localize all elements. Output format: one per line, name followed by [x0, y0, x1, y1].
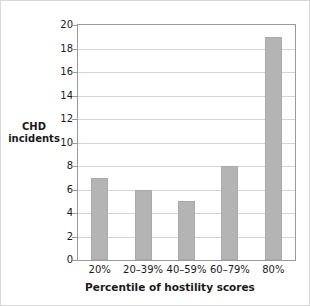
y-axis-tick-label: 6: [53, 185, 73, 195]
gridline: [78, 72, 295, 73]
y-axis-tick-label: 4: [53, 208, 73, 218]
bar: [91, 178, 108, 260]
x-axis-tick-labels: 20%20–39%40–59%60–79%80%: [77, 264, 296, 278]
gridline: [78, 190, 295, 191]
y-axis-tick-label: 16: [53, 67, 73, 77]
plot-area: [77, 24, 296, 261]
y-axis-tick-label: 18: [53, 44, 73, 54]
gridline: [78, 143, 295, 144]
x-axis-title: Percentile of hostility scores: [41, 281, 299, 293]
bar: [221, 166, 238, 260]
y-axis-tick-label: 14: [53, 91, 73, 101]
y-axis-tick-label: 10: [53, 138, 73, 148]
bar: [265, 37, 282, 260]
y-axis-tick-label: 2: [53, 232, 73, 242]
gridline: [78, 119, 295, 120]
bar: [135, 190, 152, 261]
gridline: [78, 49, 295, 50]
bar: [178, 201, 195, 260]
gridline: [78, 96, 295, 97]
y-axis-tick-label: 12: [53, 114, 73, 124]
x-axis-tick-label: 80%: [243, 264, 303, 276]
plot-inner: [78, 25, 295, 260]
y-axis-tick-label: 8: [53, 161, 73, 171]
y-axis-tick-label: 20: [53, 20, 73, 30]
chart-figure: CHD incidents 02468101214161820 20%20–39…: [0, 0, 310, 306]
y-axis-tick-labels: 02468101214161820: [53, 24, 73, 261]
gridline: [78, 166, 295, 167]
